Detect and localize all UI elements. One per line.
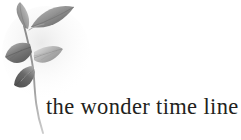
- logo-artwork: the wonder time line: [0, 0, 241, 140]
- wordmark-text: the wonder time line: [46, 92, 238, 122]
